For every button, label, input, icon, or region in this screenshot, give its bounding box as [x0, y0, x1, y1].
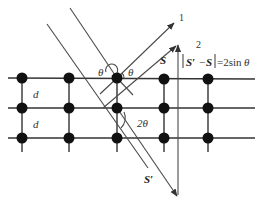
- atom: [203, 74, 214, 85]
- vector-s-label: S: [160, 54, 166, 66]
- ray-2-label: 2: [196, 39, 201, 50]
- theta-reflected-label: θ: [128, 66, 134, 78]
- atom: [17, 133, 28, 144]
- atom: [203, 103, 214, 114]
- spacing-d-label-top: d: [33, 88, 39, 100]
- atom: [64, 103, 75, 114]
- atom: [17, 103, 28, 114]
- bragg-diagram: 1 2 θ θ 2θ d d S S′ S′ − S =2sin θ: [0, 0, 266, 204]
- theta-incident-label: θ: [98, 66, 104, 78]
- atom: [17, 73, 28, 84]
- reflected-ray-1-arrow: [117, 23, 174, 78]
- atom: [64, 73, 75, 84]
- lattice-plane-1: [8, 78, 255, 79]
- atom: [203, 133, 214, 144]
- atom: [159, 74, 170, 85]
- equation-s: S: [206, 56, 212, 68]
- equation-rhs: =2sin: [217, 56, 242, 68]
- equation-theta: θ: [244, 56, 250, 68]
- atom: [159, 133, 170, 144]
- atom: [112, 73, 123, 84]
- equation-s-prime: S′: [186, 56, 195, 68]
- atom: [159, 103, 170, 114]
- magnitude-equation: S′ − S =2sin θ: [183, 54, 250, 68]
- spacing-d-label-bottom: d: [33, 118, 39, 130]
- atom: [64, 133, 75, 144]
- incident-ray-2: [47, 24, 148, 168]
- atom: [112, 103, 123, 114]
- equation-minus: −: [199, 56, 205, 68]
- vector-s-prime-label: S′: [144, 173, 153, 185]
- ray-1-label: 1: [179, 12, 184, 23]
- atom: [112, 133, 123, 144]
- two-theta-label: 2θ: [137, 117, 149, 129]
